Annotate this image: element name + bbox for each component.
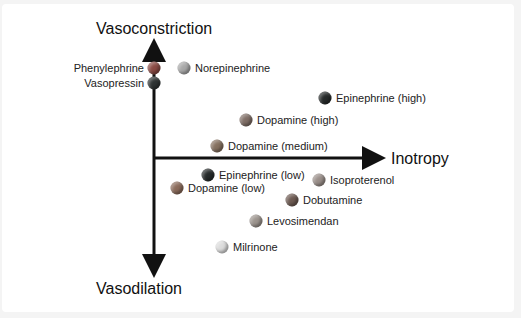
drug-label: Milrinone [233,241,278,253]
drug-label: Epinephrine (high) [336,92,426,104]
drug-label: Phenylephrine [74,62,144,74]
drug-label: Dopamine (high) [257,114,338,126]
drug-marker [286,194,299,207]
drug-label: Vasopressin [84,77,144,89]
drug-marker [178,62,191,75]
axis-title-inotropy: Inotropy [391,150,449,168]
drug-label: Norepinephrine [195,62,270,74]
drug-marker [240,114,253,127]
drug-label: Isoproterenol [330,174,394,186]
drug-label: Epinephrine (low) [219,169,305,181]
drug-marker [211,140,224,153]
axis-title-vasoconstriction: Vasoconstriction [96,20,212,38]
drug-marker [202,169,215,182]
drug-marker [250,215,263,228]
drug-label: Levosimendan [267,215,339,227]
drug-marker [216,241,229,254]
drug-marker [148,77,161,90]
drug-marker [171,182,184,195]
drug-label: Dopamine (low) [188,182,265,194]
drug-marker [148,62,161,75]
axis-title-vasodilation: Vasodilation [96,280,182,298]
drug-label: Dobutamine [303,194,362,206]
drug-label: Dopamine (medium) [228,140,328,152]
drug-marker [319,92,332,105]
drug-marker [313,174,326,187]
